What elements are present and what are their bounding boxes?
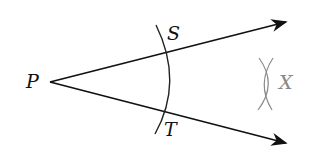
construction-figure: [0, 0, 326, 158]
label-p: P: [26, 72, 39, 91]
label-s: S: [167, 24, 180, 43]
label-x: X: [279, 73, 293, 92]
label-t: T: [164, 120, 177, 139]
arc-x-left: [258, 58, 268, 110]
